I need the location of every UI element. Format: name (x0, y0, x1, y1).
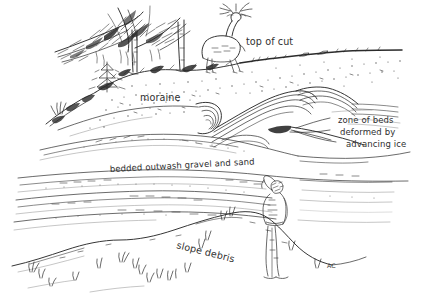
sketch-canvas: top of cut moraine zone of beds deformed… (0, 0, 425, 299)
label-top-of-cut: top of cut (246, 36, 293, 47)
artist-initials: AC (327, 262, 336, 269)
label-zone-of-beds-line3: advancing ice (346, 139, 406, 149)
label-moraine: moraine (140, 92, 180, 103)
label-zone-of-beds-line2: deformed by (340, 127, 395, 137)
label-zone-of-beds-line1: zone of beds (338, 115, 394, 125)
geological-sketch-figure: top of cut moraine zone of beds deformed… (0, 0, 425, 299)
